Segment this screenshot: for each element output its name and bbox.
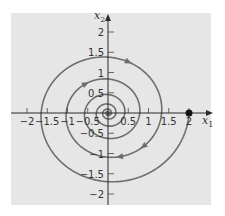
x-tick-label: 1 <box>145 116 151 127</box>
x-tick-label: −0.5 <box>76 116 100 127</box>
y-tick-label: −1 <box>89 149 104 160</box>
y-tick-label: −0.5 <box>80 128 104 139</box>
y-tick-label: 1.5 <box>88 47 104 58</box>
x-tick-label: −2 <box>20 116 35 127</box>
y-tick-label: −1.5 <box>80 169 104 180</box>
y-tick-label: 1 <box>98 68 104 79</box>
phase-portrait-plot: −2−1.5−1−0.50.511.5221.510.5−0.5−1−1.5−2… <box>0 0 225 216</box>
y-tick-label: 0.5 <box>88 88 104 99</box>
x-tick-label: 2 <box>186 116 192 127</box>
x-tick-label: −1.5 <box>35 116 59 127</box>
x-tick-label: 1.5 <box>161 116 177 127</box>
y-axis-label: x2 <box>94 9 105 24</box>
y-tick-label: −2 <box>89 189 104 200</box>
y-tick-label: 2 <box>98 27 104 38</box>
x-axis-label: x1 <box>202 114 213 129</box>
initial-point-marker <box>186 110 193 117</box>
x-tick-label: 0.5 <box>120 116 136 127</box>
x-tick-label: −1 <box>60 116 75 127</box>
